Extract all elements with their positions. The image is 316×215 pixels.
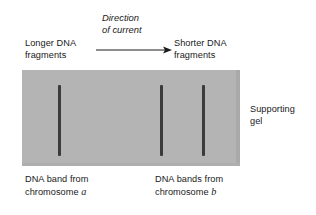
band-a-line-1: DNA band from [25, 174, 88, 184]
dna-bands-chromosome-b-label: DNA bands fromchromosome b [155, 174, 223, 198]
band-b-line-1: DNA bands from [155, 174, 223, 184]
supporting-gel-slab [22, 70, 240, 166]
chromosome-a-symbol: a [81, 186, 86, 197]
gel-right-shadow [236, 70, 240, 166]
band-a-line-2: chromosome [25, 187, 81, 197]
dna-band-chromosome-a [58, 85, 61, 156]
shorter-dna-fragments-label: Shorter DNA fragments [174, 38, 227, 61]
supporting-gel-label: Supporting gel [250, 104, 295, 127]
direction-line-1: Direction [102, 12, 139, 23]
direction-of-current-arrow-icon [96, 44, 172, 56]
direction-line-2: of current [102, 24, 142, 35]
dna-band-chromosome-b-2 [202, 85, 205, 156]
gel-bottom-shadow [22, 163, 240, 166]
gel-electrophoresis-figure: Directionof current Longer DNA fragments… [0, 0, 316, 215]
chromosome-b-symbol: b [211, 186, 216, 197]
dna-band-chromosome-a-label: DNA band fromchromosome a [25, 174, 88, 198]
direction-of-current-label: Directionof current [102, 12, 142, 35]
longer-dna-fragments-label: Longer DNA fragments [25, 38, 76, 61]
dna-band-chromosome-b-1 [160, 85, 163, 156]
band-b-line-2: chromosome [155, 187, 211, 197]
